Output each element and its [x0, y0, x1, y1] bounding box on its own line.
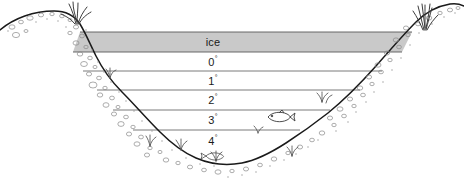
aquatic-plant — [176, 139, 187, 150]
speckle — [317, 139, 318, 140]
pebble — [9, 25, 15, 29]
aquatic-plant — [106, 68, 116, 78]
aquatic-plant — [317, 92, 332, 103]
isotherm-lines — [83, 71, 382, 130]
speckle — [57, 20, 58, 21]
speckle — [283, 159, 284, 160]
pebble — [131, 125, 135, 128]
speckle — [125, 100, 126, 101]
speckle — [151, 130, 152, 131]
pebble — [124, 115, 129, 119]
speckle — [373, 91, 374, 92]
pebble — [310, 138, 315, 142]
pebble — [158, 150, 162, 153]
pebble — [116, 105, 120, 108]
pebble — [176, 161, 180, 164]
speckle — [454, 12, 455, 13]
speckle — [241, 174, 242, 175]
speckle — [335, 130, 336, 131]
speckle — [141, 120, 142, 121]
grass-blade — [427, 15, 438, 30]
pebble — [19, 20, 24, 24]
pebble — [81, 62, 88, 67]
pebble — [388, 58, 392, 61]
pebble — [163, 158, 169, 162]
speckle — [431, 23, 432, 24]
pebble — [202, 168, 207, 172]
speckle — [355, 111, 356, 112]
pebble — [86, 72, 91, 76]
pebble — [97, 76, 102, 80]
speckle — [347, 121, 348, 122]
pebble — [337, 107, 343, 111]
pebble — [243, 167, 248, 171]
speckle — [418, 32, 419, 33]
ice-slab-fill — [73, 32, 412, 52]
aquatic-plant — [146, 135, 156, 146]
speckle — [133, 110, 134, 111]
pebble — [258, 163, 263, 167]
speckle — [46, 18, 47, 19]
pebble — [187, 165, 192, 169]
pebble — [403, 26, 408, 30]
speckle — [7, 30, 8, 31]
pebble — [148, 146, 152, 149]
pebble — [352, 104, 356, 107]
pebble — [319, 131, 325, 135]
fish-swimming-left — [268, 110, 295, 122]
pebble — [126, 132, 131, 136]
speckle — [391, 69, 392, 70]
pebble — [110, 96, 115, 100]
speckle — [295, 153, 296, 154]
ice-layer — [73, 32, 412, 52]
pebble — [88, 56, 93, 60]
speckle — [103, 71, 104, 72]
speckle — [213, 165, 214, 166]
pebble — [89, 82, 97, 88]
pebble — [12, 32, 19, 37]
pebble — [357, 86, 363, 90]
pebble — [103, 103, 109, 108]
pebble — [27, 16, 33, 20]
pebble — [77, 52, 83, 56]
speckle — [443, 16, 444, 17]
speckle — [255, 171, 256, 172]
fish-eye — [271, 115, 273, 117]
speckle — [110, 81, 111, 82]
pebble — [327, 116, 332, 120]
pebble — [111, 112, 116, 116]
speckle — [118, 91, 119, 92]
speckle — [365, 101, 366, 102]
pebble — [332, 123, 336, 126]
pebble — [361, 93, 366, 97]
aquatic-plants — [106, 68, 332, 161]
speckle — [91, 49, 92, 50]
pebble — [73, 25, 78, 29]
aquatic-plant — [254, 126, 263, 133]
speckle — [199, 163, 200, 164]
speckle — [185, 157, 186, 158]
pebble — [68, 31, 72, 34]
lake-cross-section-figure: ice 0° 1° 2° 3° 4° — [0, 0, 464, 189]
pebble — [456, 7, 460, 10]
pebble — [342, 114, 347, 118]
fish-tail — [201, 153, 206, 159]
pebble — [24, 30, 28, 33]
speckle — [171, 149, 172, 150]
speckle — [409, 44, 410, 45]
lake-cross-section-svg — [0, 0, 464, 189]
pebble — [370, 82, 374, 85]
pebble — [286, 151, 290, 154]
pebble — [271, 157, 277, 161]
pebble — [38, 13, 43, 17]
pebble — [230, 169, 234, 172]
pebble — [97, 93, 103, 97]
pebble — [366, 75, 371, 79]
pebble — [144, 153, 149, 157]
pebble — [447, 8, 452, 12]
pebble — [118, 122, 124, 127]
speckle — [400, 57, 401, 58]
pebble — [103, 86, 107, 89]
pebble — [438, 11, 442, 14]
speckle — [269, 165, 270, 166]
